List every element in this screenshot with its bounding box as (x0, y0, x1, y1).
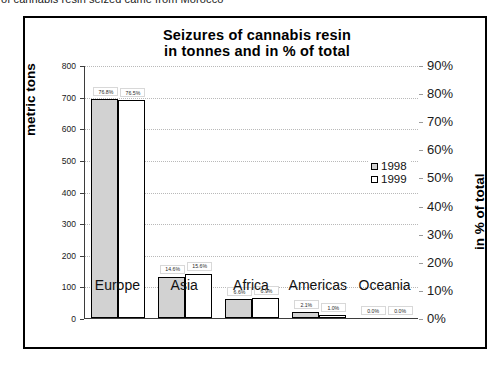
bar-value-label-asia-1999: 15.6% (187, 262, 212, 271)
y-tick-mark-right (419, 207, 423, 208)
legend-swatch-icon-1999 (371, 176, 378, 183)
y-tick-mark-left (80, 129, 84, 130)
bar-value-label-oceania-1999: 0.0% (388, 306, 413, 315)
bar-americas-1999[interactable] (319, 315, 346, 318)
y-tick-mark-left (80, 256, 84, 257)
y-tick-mark-left (80, 66, 84, 67)
y-tick-label-right: 20% (427, 257, 467, 269)
y-tick-mark-right (419, 66, 423, 67)
y-tick-mark-right (419, 263, 423, 264)
legend-swatch-icon-1998 (371, 163, 378, 170)
y-tick-label-right: 80% (427, 88, 467, 100)
y-tick-label-right: 60% (427, 144, 467, 156)
gridline (85, 66, 418, 67)
gridline (85, 98, 418, 99)
y-tick-label-left: 300 (42, 220, 76, 228)
y-tick-label-right: 70% (427, 116, 467, 128)
y-axis-label-right: in % of total (472, 174, 487, 251)
caption-text: of cannabis resin seized came from Moroc… (1, 0, 223, 5)
legend-item-1999[interactable]: 1999 (371, 173, 407, 186)
y-tick-label-left: 400 (42, 189, 76, 197)
legend-item-1998[interactable]: 1998 (371, 160, 407, 173)
chart-title-line-1: Seizures of cannabis resin (25, 27, 489, 43)
y-tick-label-left: 500 (42, 157, 76, 165)
bar-value-label-europe-1998: 76.8% (93, 87, 118, 96)
bar-value-label-oceania-1998: 0.0% (361, 306, 386, 315)
y-tick-mark-right (419, 235, 423, 236)
y-tick-label-right: 50% (427, 172, 467, 184)
y-tick-mark-right (419, 94, 423, 95)
legend-label-1998: 1998 (381, 160, 407, 173)
bar-value-label-europe-1999: 76.5% (120, 88, 145, 97)
page-caption-strip: of cannabis resin seized came from Moroc… (0, 0, 504, 9)
y-tick-mark-right (419, 150, 423, 151)
y-tick-mark-left (80, 319, 84, 320)
chart-title: Seizures of cannabis resin in tonnes and… (25, 27, 489, 59)
bar-value-label-asia-1998: 14.6% (160, 265, 185, 274)
bar-africa-1999[interactable] (252, 298, 279, 318)
bar-americas-1998[interactable] (292, 312, 319, 318)
y-tick-mark-right (419, 122, 423, 123)
y-tick-label-left: 800 (42, 62, 76, 70)
y-tick-label-right: 40% (427, 201, 467, 213)
y-tick-mark-left (80, 98, 84, 99)
y-tick-label-left: 0 (42, 315, 76, 323)
y-axis-label-left: metric tons (23, 63, 38, 136)
y-tick-mark-right (419, 319, 423, 320)
y-tick-mark-right (419, 178, 423, 179)
y-tick-mark-left (80, 161, 84, 162)
y-tick-label-left: 600 (42, 125, 76, 133)
y-tick-label-right: 30% (427, 229, 467, 241)
chart-title-line-2: in tonnes and in % of total (25, 43, 489, 59)
y-tick-label-right: 90% (427, 60, 467, 72)
bar-value-label-americas-1998: 2.1% (294, 300, 319, 309)
y-tick-mark-left (80, 193, 84, 194)
y-tick-label-left: 700 (42, 94, 76, 102)
x-axis-label-oceania: Oceania (335, 277, 435, 293)
bar-africa-1998[interactable] (225, 299, 252, 318)
bar-value-label-americas-1999: 1.0% (321, 303, 346, 312)
y-tick-label-left: 200 (42, 252, 76, 260)
chart-frame: Seizures of cannabis resin in tonnes and… (23, 16, 487, 349)
y-tick-mark-left (80, 224, 84, 225)
legend-label-1999: 1999 (381, 173, 407, 186)
y-tick-label-right: 0% (427, 313, 467, 325)
chart-legend: 1998 1999 (368, 159, 410, 188)
